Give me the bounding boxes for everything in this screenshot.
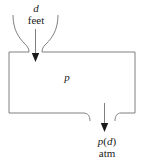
outlet-flow-arrow	[101, 103, 108, 132]
vessel-pressure-label: p	[50, 72, 84, 84]
figure-container: d feet p p(d) atm	[0, 0, 145, 167]
outlet-function-close-paren: )	[113, 135, 117, 147]
outlet-right-curve	[115, 113, 135, 121]
outlet-units-label: atm	[76, 148, 138, 160]
inlet-flow-arrow	[32, 29, 39, 62]
inlet-units-label: feet	[0, 15, 72, 27]
outlet-left-curve	[83, 113, 90, 121]
